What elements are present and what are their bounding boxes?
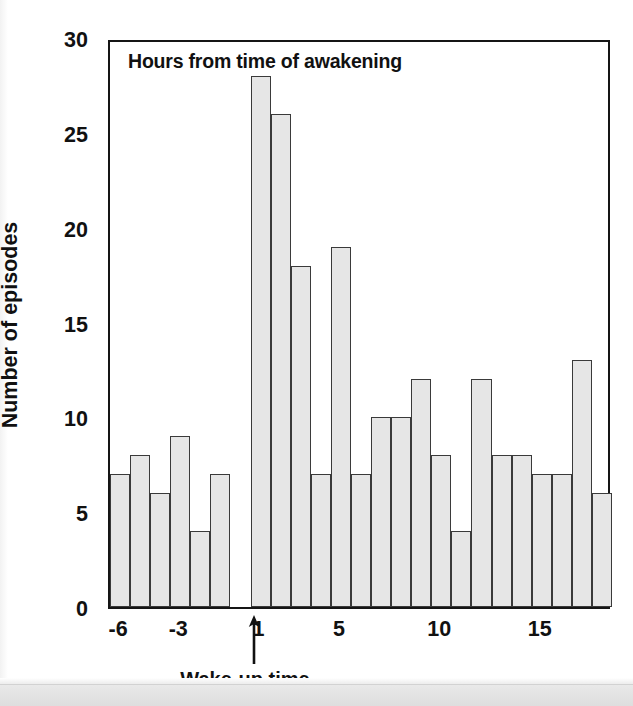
histogram-bars bbox=[110, 42, 608, 607]
plot-area: Hours from time of awakening bbox=[108, 40, 610, 609]
y-axis-tick-label: 10 bbox=[64, 407, 88, 432]
histogram-bar bbox=[251, 76, 271, 607]
x-axis-tick-label: 5 bbox=[333, 617, 345, 642]
histogram-bar bbox=[170, 436, 190, 607]
y-axis-tick-label: 15 bbox=[64, 312, 88, 337]
histogram-bar bbox=[572, 360, 592, 607]
histogram-bar bbox=[110, 474, 130, 607]
histogram-bar bbox=[371, 417, 391, 607]
y-axis-tick-label: 5 bbox=[76, 502, 88, 527]
y-axis-tick-labels: 051015202530 bbox=[0, 40, 108, 609]
histogram-bar bbox=[592, 493, 612, 607]
x-axis-tick-label: -3 bbox=[169, 617, 188, 642]
y-axis-tick-label: 20 bbox=[64, 217, 88, 242]
histogram-bar bbox=[150, 493, 170, 607]
histogram-bar bbox=[451, 531, 471, 607]
figure: Number of episodes 051015202530 Hours fr… bbox=[0, 0, 633, 706]
histogram-bar bbox=[130, 455, 150, 607]
histogram-bar bbox=[431, 455, 451, 607]
scanned-page-band bbox=[0, 678, 633, 706]
y-axis-tick-label: 0 bbox=[76, 597, 88, 622]
x-axis-tick-label: -6 bbox=[108, 617, 127, 642]
histogram-bar bbox=[291, 266, 311, 607]
histogram-bar bbox=[331, 247, 351, 607]
x-axis-tick-labels: -6-3151015 bbox=[108, 617, 610, 647]
y-axis-tick-label: 25 bbox=[64, 122, 88, 147]
histogram-bar bbox=[492, 455, 512, 607]
histogram-bar bbox=[351, 474, 371, 607]
wake-up-arrow-icon bbox=[247, 612, 261, 664]
histogram-bar bbox=[311, 474, 331, 607]
histogram-bar bbox=[512, 455, 532, 607]
histogram-bar bbox=[411, 379, 431, 607]
histogram-bar bbox=[471, 379, 491, 607]
histogram-bar bbox=[532, 474, 552, 607]
y-axis-tick-label: 30 bbox=[64, 28, 88, 53]
x-axis-tick-label: 15 bbox=[528, 617, 552, 642]
histogram-bar bbox=[190, 531, 210, 607]
histogram-bar bbox=[210, 474, 230, 607]
x-axis-tick-label: 10 bbox=[427, 617, 451, 642]
histogram-bar bbox=[391, 417, 411, 607]
histogram-bar bbox=[552, 474, 572, 607]
histogram-bar bbox=[271, 114, 291, 607]
